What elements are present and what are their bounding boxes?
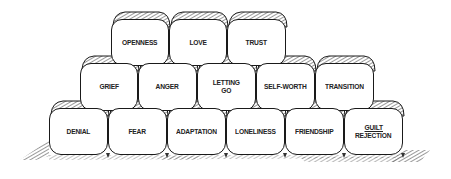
block-label: FRIENDSHIP xyxy=(295,128,333,136)
block-label: LETTING xyxy=(213,79,240,87)
block-grief: GRIEF xyxy=(80,63,138,111)
block-label: LONELINESS xyxy=(235,128,276,136)
block-letting-go: LETTINGGO xyxy=(197,63,256,111)
block-label: OPENNESS xyxy=(122,39,157,47)
blocks-diagram: OPENNESSLOVETRUSTGRIEFANGERLETTINGGOSELF… xyxy=(0,0,451,179)
block-fear: FEAR xyxy=(108,108,167,155)
block-label: TRUST xyxy=(246,39,267,47)
block-label: REJECTION xyxy=(355,132,391,140)
block-label: TRANSITION xyxy=(325,83,364,91)
block-loneliness: LONELINESS xyxy=(226,108,285,155)
block-label: LOVE xyxy=(189,39,206,47)
block-anger: ANGER xyxy=(138,63,197,111)
block-trust: TRUST xyxy=(227,19,286,66)
block-denial: DENIAL xyxy=(49,108,108,155)
block-love: LOVE xyxy=(169,19,227,66)
block-adaptation: ADAPTATION xyxy=(167,108,226,155)
block-self-worth: SELF-WORTH xyxy=(256,63,315,111)
block-label: GO xyxy=(222,87,232,95)
block-friendship: FRIENDSHIP xyxy=(285,108,344,155)
block-label: GRIEF xyxy=(99,83,118,91)
block-transition: TRANSITION xyxy=(315,63,374,111)
block-guilt-rejection: GUILTREJECTION xyxy=(344,108,403,155)
block-label: ANGER xyxy=(156,83,179,91)
block-label: SELF-WORTH xyxy=(264,83,306,91)
block-label: GUILT xyxy=(364,124,383,132)
block-label: ADAPTATION xyxy=(176,128,217,136)
block-label: DENIAL xyxy=(67,128,91,136)
block-openness: OPENNESS xyxy=(111,19,169,66)
block-label: FEAR xyxy=(129,128,146,136)
